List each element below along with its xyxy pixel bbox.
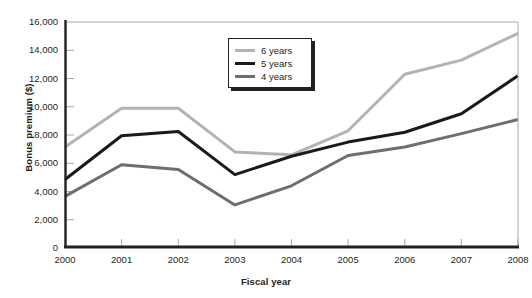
legend-item[interactable]: 6 years (235, 44, 311, 57)
series-line (65, 120, 518, 205)
legend-swatch-icon (235, 49, 255, 52)
x-tick-label: 2006 (382, 254, 428, 265)
legend-label: 6 years (261, 45, 292, 56)
x-tick-label: 2008 (495, 254, 532, 265)
x-tick-label: 2007 (438, 254, 484, 265)
legend-item[interactable]: 4 years (235, 70, 311, 83)
x-tick-label: 2002 (155, 254, 201, 265)
legend-swatch-icon (235, 75, 255, 78)
chart-figure: Bonus premium ($) 02,0004,0006,0008,0001… (0, 0, 532, 298)
x-tick-label: 2003 (212, 254, 258, 265)
x-tick-label: 2001 (99, 254, 145, 265)
x-axis-tick-labels: 200020012002200320042005200620072008 (0, 254, 532, 270)
x-tick-label: 2004 (269, 254, 315, 265)
legend-item[interactable]: 5 years (235, 57, 311, 70)
x-axis-title: Fiscal year (0, 276, 532, 287)
chart-legend: 6 years5 years4 years (228, 38, 312, 88)
x-tick-label: 2000 (42, 254, 88, 265)
legend-swatch-icon (235, 62, 255, 65)
series-line (65, 76, 518, 180)
x-tick-label: 2005 (325, 254, 371, 265)
legend-label: 5 years (261, 58, 292, 69)
legend-label: 4 years (261, 71, 292, 82)
